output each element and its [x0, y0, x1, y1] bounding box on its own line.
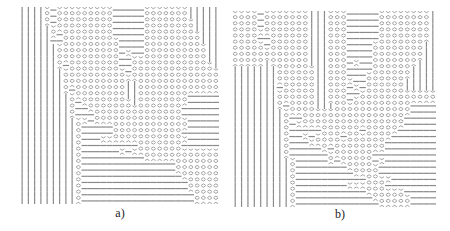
cross-glyph: [284, 122, 288, 128]
cross-glyph: [182, 20, 186, 26]
cross-glyph: [207, 69, 211, 75]
cross-glyph: [367, 73, 371, 79]
cross-glyph: [284, 60, 288, 66]
cross-glyph: [360, 91, 364, 97]
cross-glyph: [64, 50, 68, 56]
cross-glyph: [214, 192, 218, 198]
cross-glyph: [195, 75, 199, 81]
cross-glyph: [348, 140, 352, 146]
cross-glyph: [114, 50, 118, 56]
cross-glyph: [120, 149, 124, 155]
cross-glyph: [164, 124, 168, 130]
cross-glyph: [76, 155, 80, 161]
cross-glyph: [132, 75, 136, 81]
cross-glyph: [290, 60, 294, 66]
cross-glyph: [418, 36, 422, 42]
cross-glyph: [265, 24, 269, 30]
cross-glyph: [329, 24, 333, 30]
cross-glyph: [341, 115, 345, 121]
cross-glyph: [380, 54, 384, 60]
cross-glyph: [151, 106, 155, 112]
cross-glyph: [214, 81, 218, 87]
cross-glyph: [271, 11, 275, 17]
cross-glyph: [354, 103, 358, 109]
cross-glyph: [82, 32, 86, 38]
cross-glyph: [239, 42, 243, 48]
cross-glyph: [258, 48, 262, 54]
cross-glyph: [252, 36, 256, 42]
cross-glyph: [341, 109, 345, 115]
cross-glyph: [265, 11, 269, 17]
cross-glyph: [399, 48, 403, 54]
cross-glyph: [303, 66, 307, 72]
cross-glyph: [101, 13, 105, 19]
cross-glyph: [126, 137, 130, 143]
cross-glyph: [114, 44, 118, 50]
cross-glyph: [399, 36, 403, 42]
cross-glyph: [348, 152, 352, 158]
cross-glyph: [170, 69, 174, 75]
cross-glyph: [278, 103, 282, 109]
cross-glyph: [418, 11, 422, 17]
cross-glyph: [239, 48, 243, 54]
cross-glyph: [157, 143, 161, 149]
cross-glyph: [354, 122, 358, 128]
cross-glyph: [367, 152, 371, 158]
cross-glyph: [76, 81, 80, 87]
cross-glyph: [201, 167, 205, 173]
cross-glyph: [354, 109, 358, 115]
cross-glyph: [424, 17, 428, 23]
cross-glyph: [386, 91, 390, 97]
cross-glyph: [258, 30, 262, 36]
cross-glyph: [76, 161, 80, 167]
cross-glyph: [195, 57, 199, 63]
cross-glyph: [392, 201, 396, 207]
cross-glyph: [57, 63, 61, 69]
cross-glyph: [120, 100, 124, 106]
cross-glyph: [233, 36, 237, 42]
cross-glyph: [170, 118, 174, 124]
cross-glyph: [151, 44, 155, 50]
cross-glyph: [380, 30, 384, 36]
cross-glyph: [64, 57, 68, 63]
cross-glyph: [399, 73, 403, 79]
cross-glyph: [176, 124, 180, 130]
cross-glyph: [367, 79, 371, 85]
cross-glyph: [157, 137, 161, 143]
cross-glyph: [157, 7, 161, 13]
cross-glyph: [303, 36, 307, 42]
cross-glyph: [132, 69, 136, 75]
cross-glyph: [373, 42, 377, 48]
cross-glyph: [145, 50, 149, 56]
cross-glyph: [278, 11, 282, 17]
cross-glyph: [367, 109, 371, 115]
cross-glyph: [284, 79, 288, 85]
cross-glyph: [170, 57, 174, 63]
cross-glyph: [405, 201, 409, 207]
cross-glyph: [367, 164, 371, 170]
cross-glyph: [176, 87, 180, 93]
cross-glyph: [380, 42, 384, 48]
cross-glyph: [322, 109, 326, 115]
cross-glyph: [284, 73, 288, 79]
cross-glyph: [151, 75, 155, 81]
cross-glyph: [114, 57, 118, 63]
cross-glyph: [132, 57, 136, 63]
cross-glyph: [405, 17, 409, 23]
cross-glyph: [386, 201, 390, 207]
cross-glyph: [329, 79, 333, 85]
cross-glyph: [380, 128, 384, 134]
cross-glyph: [418, 42, 422, 48]
cross-glyph: [139, 143, 143, 149]
cross-glyph: [95, 44, 99, 50]
cross-glyph: [120, 87, 124, 93]
cross-glyph: [405, 54, 409, 60]
cross-glyph: [164, 20, 168, 26]
cross-glyph: [95, 50, 99, 56]
cross-glyph: [322, 140, 326, 146]
cross-glyph: [271, 24, 275, 30]
cross-glyph: [189, 50, 193, 56]
cross-glyph: [182, 32, 186, 38]
cross-glyph: [348, 134, 352, 140]
cross-glyph: [82, 38, 86, 44]
